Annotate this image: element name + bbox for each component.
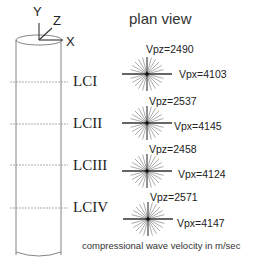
velocity-star-icon xyxy=(122,57,172,91)
core-cylinder xyxy=(16,35,62,256)
diagram-title: plan view xyxy=(129,10,192,27)
axis-x-label: X xyxy=(66,34,75,49)
level-label-lcii: LCII xyxy=(73,115,102,132)
axis-z-label: Z xyxy=(53,13,61,28)
axis-y-label: Y xyxy=(33,4,42,19)
vpx-lciii: Vpx=4124 xyxy=(178,168,226,180)
vpz-lciv: Vpz=2571 xyxy=(150,191,198,203)
level-label-lciii: LCIII xyxy=(73,157,107,174)
vpz-lcii: Vpz=2537 xyxy=(149,95,197,107)
level-label-lciv: LCIV xyxy=(73,199,108,216)
vpx-lcii: Vpx=4145 xyxy=(174,120,222,132)
vpx-lci: Vpx=4103 xyxy=(179,68,227,80)
level-lines xyxy=(10,82,68,208)
vpz-lci: Vpz=2490 xyxy=(146,43,194,55)
velocity-star-icon xyxy=(123,202,173,236)
vpz-lciii: Vpz=2458 xyxy=(149,143,197,155)
velocity-star-icon xyxy=(122,154,172,188)
vpx-lciv: Vpx=4147 xyxy=(177,217,225,229)
level-label-lci: LCI xyxy=(73,73,97,90)
caption: compressional wave velocity in m/sec xyxy=(82,240,240,251)
velocity-star-icon xyxy=(122,106,172,140)
